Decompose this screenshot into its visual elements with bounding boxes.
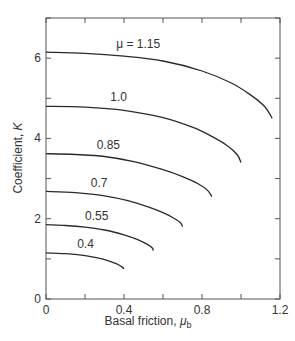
x-tick-label: 1.2 (272, 303, 289, 317)
x-tick-label: 0.8 (194, 303, 211, 317)
curve-mu-0.85 (46, 154, 212, 197)
curve-label: 0.4 (77, 237, 94, 251)
curve-mu-0.4 (46, 253, 124, 269)
y-tick-label: 2 (34, 212, 41, 226)
chart: 00.40.81.20246 μ = 1.151.00.850.70.550.4… (0, 0, 295, 341)
tick-labels: 00.40.81.20246 (34, 51, 288, 317)
curve-label: 0.55 (85, 209, 109, 223)
curve-label: μ = 1.15 (116, 37, 160, 51)
curve-label: 0.85 (97, 138, 121, 152)
y-tick-label: 4 (34, 131, 41, 145)
y-axis-label: Coefficient, K (11, 121, 25, 193)
y-tick-label: 0 (34, 292, 41, 306)
curve-label: 0.7 (91, 176, 108, 190)
curve-mu-0.55 (46, 225, 153, 251)
curve-labels: μ = 1.151.00.850.70.550.4 (77, 37, 160, 251)
plot-frame (46, 18, 280, 299)
curve-mu-0.7 (46, 191, 183, 226)
x-axis-label: Basal friction, μb (105, 314, 192, 330)
y-tick-label: 6 (34, 51, 41, 65)
curve-mu-1.15 (46, 52, 272, 118)
x-tick-label: 0 (43, 303, 50, 317)
curve-label: 1.0 (110, 90, 127, 104)
axis-ticks (46, 18, 280, 299)
